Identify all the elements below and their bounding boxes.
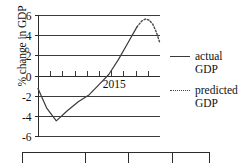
legend-label-predicted-gdp-line2: GDP [195, 97, 242, 110]
y-tick-label-0: 0 [26, 71, 32, 83]
chart-legend: actual GDP predicted GDP [170, 50, 242, 118]
legend-label-predicted-gdp: predicted GDP [195, 84, 242, 109]
legend-label-actual-gdp-line2: GDP [195, 63, 242, 76]
y-tick-label--6: -6 [22, 131, 32, 143]
gridline--6 [38, 136, 160, 137]
table-column-divider-3 [172, 153, 173, 163]
gdp-change-chart: % change in GDP 6420-2-4-6 2015 actual G… [0, 0, 242, 163]
legend-swatch-dotted-line-icon [170, 90, 190, 91]
legend-label-actual-gdp-line1: actual [195, 50, 242, 63]
y-tick-label--2: -2 [22, 91, 32, 103]
series-plot [38, 15, 160, 136]
y-tick--6: -6 [35, 136, 39, 137]
table-column-divider-1 [85, 153, 86, 163]
actual-gdp-line [38, 27, 137, 121]
legend-item-actual-gdp: actual GDP [170, 50, 242, 75]
legend-swatch-solid-line-icon [170, 56, 190, 57]
legend-label-predicted-gdp-line1: predicted [195, 84, 242, 97]
legend-item-predicted-gdp: predicted GDP [170, 84, 242, 109]
y-tick-label-4: 4 [26, 30, 32, 42]
table-column-divider-2 [128, 153, 129, 163]
bottom-table-cropped [22, 152, 210, 163]
predicted-gdp-line [137, 19, 160, 43]
plot-area: 6420-2-4-6 2015 [38, 15, 160, 136]
y-tick-label-2: 2 [26, 50, 32, 62]
legend-label-actual-gdp: actual GDP [195, 50, 242, 75]
y-tick-label-6: 6 [26, 10, 32, 22]
y-tick-label--4: -4 [22, 111, 32, 123]
